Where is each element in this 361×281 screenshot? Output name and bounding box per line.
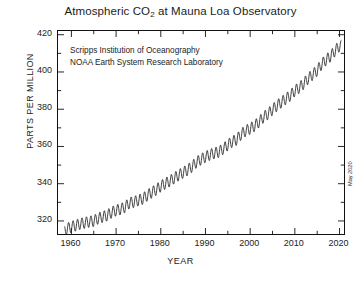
date-stamp: May 2020 <box>347 161 353 186</box>
x-tick-label: 2000 <box>239 238 259 248</box>
x-tick-label: 1960 <box>60 238 80 248</box>
y-tick-label: 400 <box>26 65 52 75</box>
x-tick-label: 1990 <box>194 238 214 248</box>
chart-title: Atmospheric CO2 at Mauna Loa Observatory <box>0 5 361 17</box>
chart-title-tail: at Mauna Loa Observatory <box>155 5 297 17</box>
x-tick-label: 2020 <box>329 238 349 248</box>
y-tick-label: 360 <box>26 139 52 149</box>
y-tick-label: 320 <box>26 214 52 224</box>
x-tick-label: 1970 <box>105 238 125 248</box>
y-tick-label: 380 <box>26 102 52 112</box>
annotation-line: NOAA Earth System Research Laboratory <box>70 57 223 69</box>
chart-title-main: Atmospheric CO <box>64 5 150 17</box>
chart-title-subscript: 2 <box>150 10 155 19</box>
x-tick-label: 1980 <box>150 238 170 248</box>
y-tick-label: 420 <box>26 28 52 38</box>
chart-annotation: Scripps Institution of OceanographyNOAA … <box>70 45 223 68</box>
x-axis-title: YEAR <box>0 256 361 266</box>
co2-line <box>65 40 342 234</box>
x-tick-label: 2010 <box>284 238 304 248</box>
y-tick-label: 340 <box>26 177 52 187</box>
x-axis-tick-labels: 1960197019801990200020102020 <box>57 238 345 252</box>
plot-area: Scripps Institution of OceanographyNOAA … <box>57 30 345 235</box>
chart-figure: Atmospheric CO2 at Mauna Loa Observatory… <box>0 0 361 281</box>
annotation-line: Scripps Institution of Oceanography <box>70 45 223 57</box>
y-axis-tick-labels: 320340360380400420 <box>26 30 54 235</box>
